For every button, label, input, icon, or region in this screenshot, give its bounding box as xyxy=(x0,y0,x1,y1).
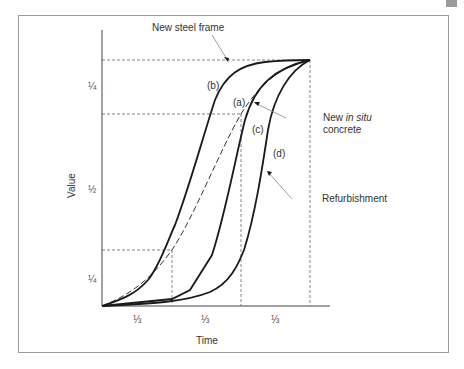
label-d: (d) xyxy=(273,148,285,159)
label-new-in-situ-line1: New in situ xyxy=(323,112,372,123)
arrow-insitu xyxy=(254,102,260,106)
x-axis-label: Time xyxy=(196,335,218,346)
x-tick-1: ⅓ xyxy=(133,314,142,325)
y-axis-label: Value xyxy=(66,173,77,198)
x-tick-3: ⅓ xyxy=(271,314,280,325)
s-curve-chart: New steel frame New in situ concrete Ref… xyxy=(0,0,464,369)
label-refurbishment: Refurbishment xyxy=(322,193,387,204)
curve-c-in-situ-concrete xyxy=(102,60,310,306)
arrow-steel xyxy=(224,57,229,62)
x-tick-2: ⅓ xyxy=(201,314,210,325)
label-c: (c) xyxy=(252,124,264,135)
curve-a xyxy=(102,60,310,306)
reference-lines xyxy=(102,60,310,306)
curve-d-refurbishment xyxy=(102,60,310,306)
label-b: (b) xyxy=(207,80,219,91)
y-tick-bottom: ¼ xyxy=(88,274,97,285)
label-a: (a) xyxy=(233,97,245,108)
label-new-steel-frame: New steel frame xyxy=(152,22,225,33)
y-tick-top: ¼ xyxy=(88,81,97,92)
y-tick-mid: ½ xyxy=(88,184,97,195)
curve-b-steel-frame xyxy=(102,60,310,306)
label-new-in-situ-line2: concrete xyxy=(323,124,362,135)
